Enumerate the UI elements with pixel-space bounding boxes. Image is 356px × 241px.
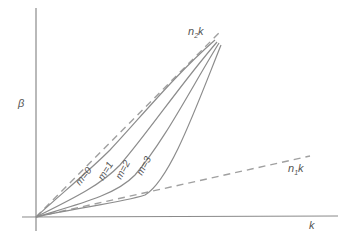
mode-label-m2: m=2 (113, 158, 132, 181)
x-axis-label: k (309, 219, 315, 231)
mode-curve-m1 (36, 42, 217, 217)
dispersion-diagram: m=0 m=1 m=2 m=3 β k n2k n1k (0, 0, 356, 241)
y-axis-label: β (17, 97, 25, 109)
n1k-label: n1k (288, 162, 304, 176)
n2k-asymptote (36, 33, 219, 217)
n2k-label: n2k (188, 25, 204, 39)
n1k-asymptote (36, 156, 310, 217)
mode-label-m1: m=1 (95, 159, 115, 182)
x-axis (22, 216, 338, 217)
mode-label-m3: m=3 (134, 154, 153, 177)
